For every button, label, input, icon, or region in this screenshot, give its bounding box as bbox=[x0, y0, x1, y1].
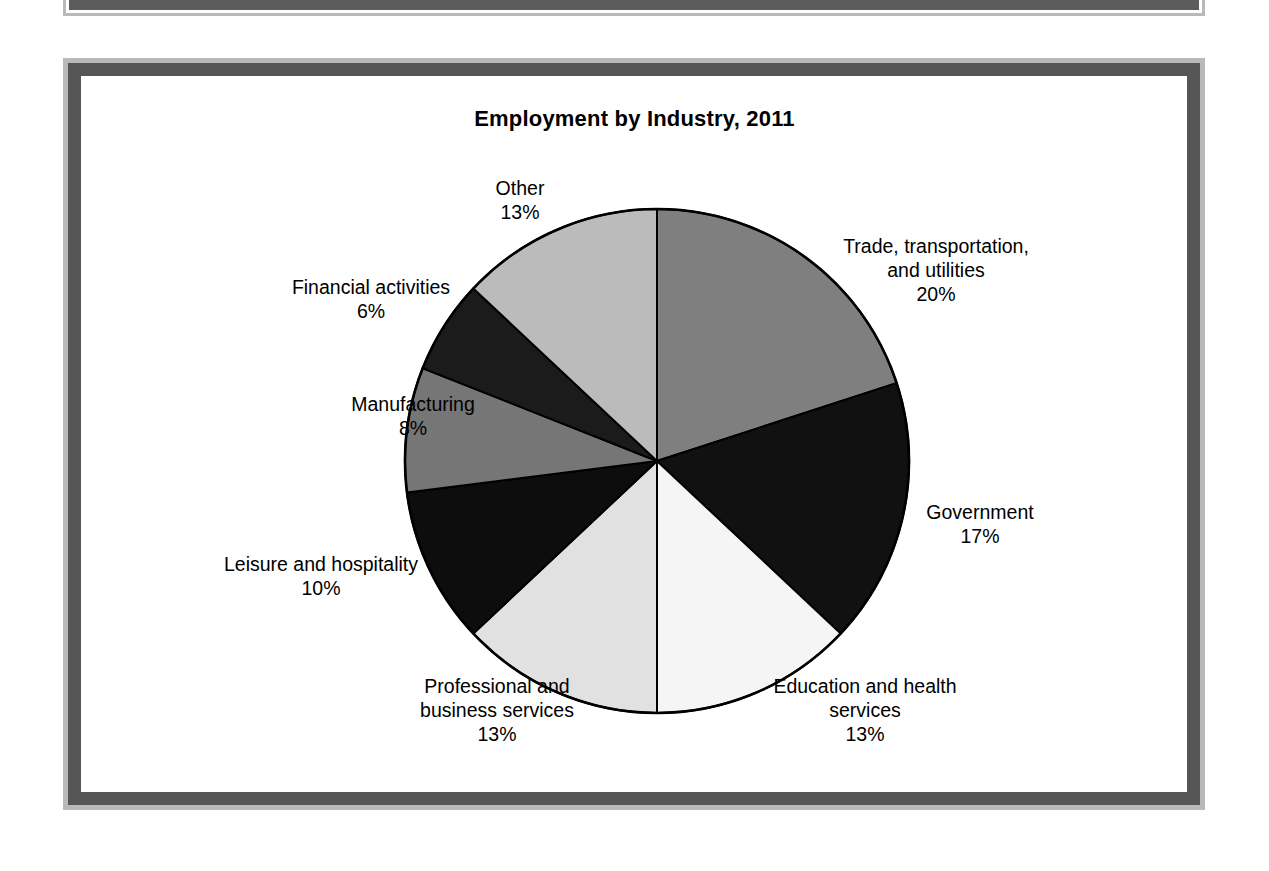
pie-label-trade-name-line2: and utilities bbox=[806, 258, 1066, 282]
pie-label-trade: Trade, transportation, and utilities 20% bbox=[806, 234, 1066, 306]
pie-label-education-name-line2: services bbox=[740, 698, 990, 722]
pie-label-trade-name-line1: Trade, transportation, bbox=[806, 234, 1066, 258]
pie-chart-figure: Employment by Industry, 2011 Other 13% T… bbox=[0, 0, 1269, 871]
pie-label-government-name: Government bbox=[880, 500, 1080, 524]
pie-label-financial: Financial activities 6% bbox=[256, 275, 486, 323]
pie-label-financial-percent: 6% bbox=[256, 299, 486, 323]
pie-label-manufacturing: Manufacturing 8% bbox=[318, 392, 508, 440]
pie-label-leisure-name: Leisure and hospitality bbox=[196, 552, 446, 576]
pie-label-professional-name-line2: business services bbox=[372, 698, 622, 722]
pie-label-manufacturing-name: Manufacturing bbox=[318, 392, 508, 416]
pie-label-other-percent: 13% bbox=[440, 200, 600, 224]
pie-label-professional: Professional and business services 13% bbox=[372, 674, 622, 746]
pie-label-professional-name-line1: Professional and bbox=[372, 674, 622, 698]
pie-label-manufacturing-percent: 8% bbox=[318, 416, 508, 440]
pie-label-education-percent: 13% bbox=[740, 722, 990, 746]
pie-label-government-percent: 17% bbox=[880, 524, 1080, 548]
pie-label-education-name-line1: Education and health bbox=[740, 674, 990, 698]
pie-label-education: Education and health services 13% bbox=[740, 674, 990, 746]
pie-label-government: Government 17% bbox=[880, 500, 1080, 548]
pie-label-professional-percent: 13% bbox=[372, 722, 622, 746]
pie-label-other: Other 13% bbox=[440, 176, 600, 224]
pie-chart-graphic bbox=[0, 0, 1269, 871]
pie-label-trade-percent: 20% bbox=[806, 282, 1066, 306]
pie-label-leisure-percent: 10% bbox=[196, 576, 446, 600]
pie-label-financial-name: Financial activities bbox=[256, 275, 486, 299]
pie-label-other-name: Other bbox=[440, 176, 600, 200]
pie-label-leisure: Leisure and hospitality 10% bbox=[196, 552, 446, 600]
